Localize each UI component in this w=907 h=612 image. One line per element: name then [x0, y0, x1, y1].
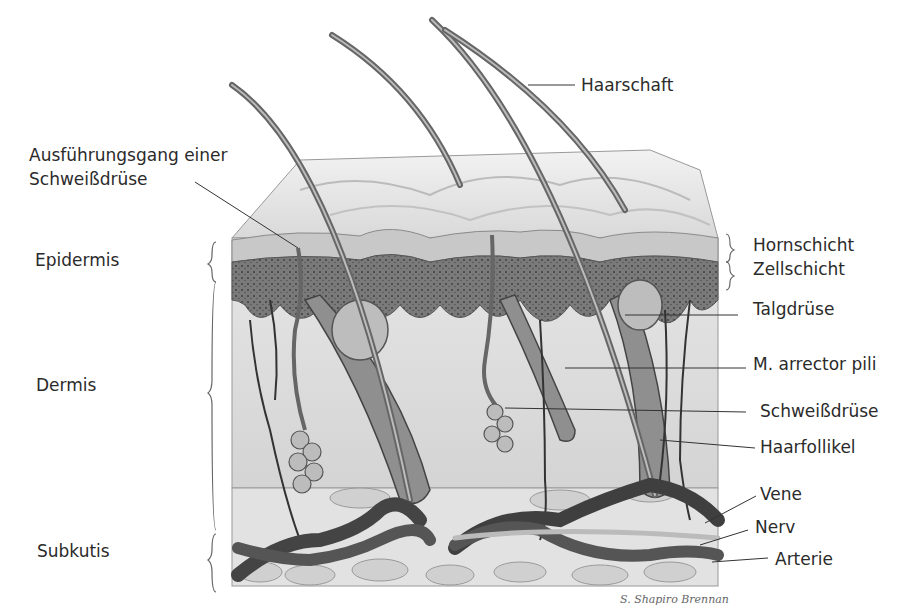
label-arrector-pili: M. arrector pili: [753, 354, 876, 375]
label-haarschaft: Haarschaft: [581, 75, 673, 96]
label-talgdruese: Talgdrüse: [753, 299, 834, 320]
label-epidermis: Epidermis: [35, 250, 119, 271]
label-duct-line1: Ausführungsgang einer: [29, 145, 228, 166]
label-nerv: Nerv: [755, 517, 795, 538]
label-vene: Vene: [760, 484, 802, 505]
label-arterie: Arterie: [775, 549, 833, 570]
label-duct-line2: Schweißdrüse: [29, 169, 148, 190]
artist-signature: S. Shapiro Brennan: [620, 593, 729, 606]
label-schweissdruese: Schweißdrüse: [760, 401, 879, 422]
label-hornschicht: Hornschicht: [753, 235, 854, 256]
skin-diagram: S. Shapiro Brennan Ausführungsgang einer…: [0, 0, 907, 612]
label-zellschicht: Zellschicht: [753, 259, 845, 280]
label-dermis: Dermis: [36, 375, 96, 396]
label-subkutis: Subkutis: [37, 541, 110, 562]
label-haarfollikel: Haarfollikel: [760, 437, 856, 458]
